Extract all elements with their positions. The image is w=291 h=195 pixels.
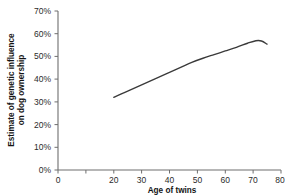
x-tick-label-20: 20 — [109, 175, 119, 185]
x-tick-label-60: 60 — [221, 175, 231, 185]
y-tick-label-70: 70% — [34, 6, 51, 16]
x-axis-title: Age of twins — [148, 186, 197, 195]
y-axis-title-line1: Estimate of genetic influence — [7, 33, 16, 147]
x-tick-label-70: 70 — [248, 175, 258, 185]
y-axis-tick-labels: 0% 10% 20% 30% 40% 50% 60% 70% — [34, 6, 51, 175]
x-tick-label-50: 50 — [193, 175, 203, 185]
y-tick-label-20: 20% — [34, 120, 51, 130]
y-tick-label-0: 0% — [39, 165, 52, 175]
y-axis-title: Estimate of genetic influence on dog own… — [7, 33, 26, 147]
x-tick-label-80: 80 — [275, 175, 285, 185]
y-tick-label-50: 50% — [34, 51, 51, 61]
y-tick-label-30: 30% — [34, 97, 51, 107]
y-axis-title-line2: on dog ownership — [17, 55, 26, 126]
x-tick-label-0: 0 — [56, 175, 61, 185]
x-tick-label-30: 30 — [137, 175, 147, 185]
line-chart: 0% 10% 20% 30% 40% 50% 60% 70% 0 20 30 — [0, 0, 291, 195]
y-tick-label-40: 40% — [34, 74, 51, 84]
x-axis-tick-labels: 0 20 30 40 50 60 70 80 — [56, 175, 285, 185]
y-tick-label-10: 10% — [34, 142, 51, 152]
y-tick-label-60: 60% — [34, 29, 51, 39]
chart-figure: 0% 10% 20% 30% 40% 50% 60% 70% 0 20 30 — [0, 0, 291, 195]
x-tick-label-40: 40 — [165, 175, 175, 185]
plot-area-background — [58, 11, 281, 170]
